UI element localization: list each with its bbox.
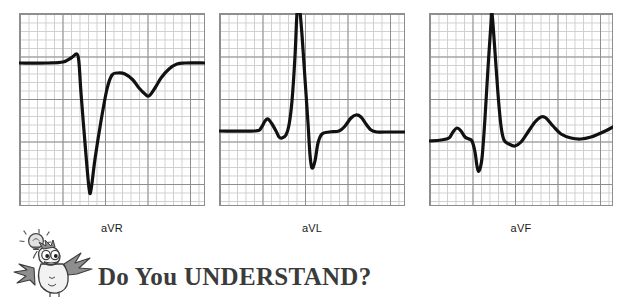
understand-banner: Do You UNDERSTAND? [0, 228, 619, 297]
ecg-trace-layer-avl [219, 13, 405, 206]
ecg-panel-avf: aVF [429, 13, 613, 206]
thinking-bird-with-lightbulb-icon [8, 228, 100, 297]
ecg-waveform-avf [429, 13, 613, 206]
ecg-panel-row: aVR aVL aVF [0, 0, 619, 228]
ecg-trace-layer-avf [429, 13, 613, 206]
ecg-trace-layer-avr [19, 13, 205, 206]
ecg-panel-avr: aVR [19, 13, 205, 206]
ecg-figure-page: aVR aVL aVF [0, 0, 619, 297]
banner-title: Do You UNDERSTAND? [98, 262, 372, 291]
ecg-waveform-avl [219, 13, 405, 206]
ecg-panel-avl: aVL [219, 13, 405, 206]
thinking-bird-illustration-svg [8, 228, 100, 297]
ecg-waveform-avr [19, 13, 205, 206]
